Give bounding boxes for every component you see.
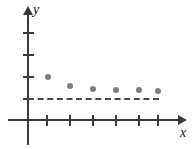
x-axis-tick-4 <box>115 115 117 126</box>
x-axis-label: x <box>180 126 186 140</box>
data-point <box>136 87 142 93</box>
x-axis-tick-3 <box>92 115 94 126</box>
data-point <box>67 83 73 89</box>
x-axis-tick-5 <box>138 115 140 126</box>
x-axis-line <box>8 119 180 121</box>
data-point <box>155 88 161 94</box>
horizontal-asymptote-dashed-line <box>28 98 159 100</box>
x-axis-tick-6 <box>157 115 159 126</box>
y-axis-tick-2 <box>23 76 34 78</box>
scatter-plot-figure: y x <box>0 0 195 149</box>
y-axis-tick-3 <box>23 54 34 56</box>
x-axis-tick-2 <box>69 115 71 126</box>
data-point <box>45 74 51 80</box>
y-axis-label: y <box>33 3 39 17</box>
y-axis-arrow-icon <box>23 6 33 15</box>
y-axis-tick-4 <box>23 32 34 34</box>
x-axis-arrow-icon <box>178 115 187 125</box>
data-point <box>113 87 119 93</box>
x-axis-tick-1 <box>46 115 48 126</box>
data-point <box>90 86 96 92</box>
